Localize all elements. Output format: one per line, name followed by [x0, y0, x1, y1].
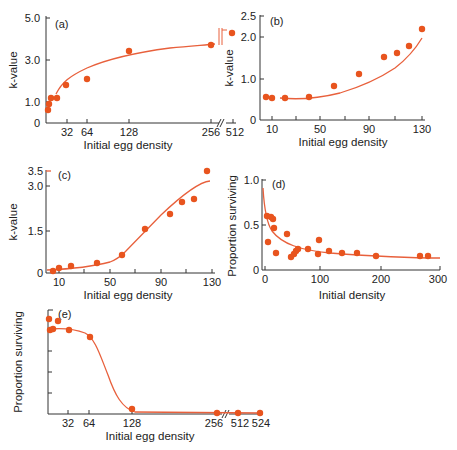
data-points	[264, 213, 431, 260]
y-tick: 1.5	[28, 225, 43, 237]
x-axis-title: Initial egg density	[299, 136, 388, 148]
fit-curve	[49, 329, 260, 413]
panel-a-axes	[46, 16, 219, 123]
x-tick: 32	[62, 417, 74, 429]
y-tick: 1.0	[244, 174, 259, 186]
panel-label: (a)	[55, 18, 68, 30]
x-tick: 90	[363, 123, 375, 135]
panel-e: 32 64 128 256 512 524 (e) Initial egg de…	[12, 308, 270, 442]
y-tick: 2.0	[241, 31, 256, 43]
fit-curve	[47, 181, 210, 270]
x-tick: 256	[205, 417, 223, 429]
y-axis-title: Proportion surviving	[12, 311, 24, 413]
x-tick: 50	[314, 123, 326, 135]
x-axis-title: Initial density	[319, 289, 386, 301]
x-tick: 10	[266, 123, 278, 135]
y-axis-title: Proportion surviving	[226, 175, 238, 277]
y-axis-title: k-value	[7, 203, 19, 240]
x-tick: 0	[262, 273, 268, 285]
y-tick: 0	[253, 264, 259, 276]
panel-e-axes	[48, 310, 222, 414]
x-axis-title: Initial egg density	[106, 430, 195, 442]
x-tick: 130	[413, 123, 431, 135]
x-tick: 200	[372, 273, 390, 285]
x-axis-title: Initial egg density	[84, 139, 173, 151]
x-tick: 50	[104, 276, 116, 288]
panel-c: 3.5 3.0 1.5 0 10 50 90 130 (c) Initial e…	[7, 165, 221, 301]
y-tick: 3.0	[28, 180, 43, 192]
x-tick: 128	[123, 417, 141, 429]
y-tick: 3.5	[28, 165, 43, 177]
panel-b: 2.5 2.0 1.0 0 10 50 90 130 (b) Initial e…	[223, 10, 431, 148]
y-axis-title: k-value	[223, 49, 235, 86]
y-tick: 0	[37, 267, 43, 279]
x-tick: 524	[252, 417, 270, 429]
data-points	[50, 168, 210, 274]
x-tick: 90	[155, 276, 167, 288]
fit-curve	[280, 38, 422, 99]
x-tick: 256	[202, 126, 220, 138]
y-axis-title: k-value	[7, 51, 19, 88]
x-tick: 512	[226, 126, 244, 138]
y-tick: 0	[250, 114, 256, 126]
x-tick: 128	[120, 126, 138, 138]
x-tick: 64	[81, 126, 93, 138]
fit-curve	[56, 44, 215, 94]
fit-curve	[263, 188, 440, 258]
x-tick: 512	[231, 417, 249, 429]
panel-label: (d)	[272, 178, 285, 190]
panel-label: (e)	[58, 308, 71, 320]
figure-canvas: 5.0 3.0 1.0 0 32 64 128 256 512 (a) Init…	[0, 0, 457, 450]
y-tick: 5.0	[25, 12, 40, 24]
x-tick: 300	[429, 273, 447, 285]
panel-b-axes	[260, 15, 425, 120]
panel-c-axes	[46, 170, 215, 273]
y-tick: 1.0	[25, 96, 40, 108]
x-tick: 130	[203, 276, 221, 288]
x-tick: 32	[61, 126, 73, 138]
panel-a: 5.0 3.0 1.0 0 32 64 128 256 512 (a) Init…	[7, 12, 244, 151]
y-tick: 1.0	[241, 73, 256, 85]
panel-d: 1.0 0.5 0 0 100 200 300 (d) Initial dens…	[226, 174, 447, 301]
x-axis-title: Initial egg density	[84, 289, 173, 301]
panel-label: (b)	[270, 15, 283, 27]
x-tick: 64	[83, 417, 95, 429]
x-tick: 10	[53, 276, 65, 288]
y-tick: 3.0	[25, 54, 40, 66]
y-tick: 0	[34, 117, 40, 129]
x-tick: 100	[311, 273, 329, 285]
y-tick: 2.5	[241, 10, 256, 22]
data-points	[45, 30, 235, 113]
panel-label: (c)	[58, 169, 71, 181]
y-tick: 0.5	[244, 219, 259, 231]
